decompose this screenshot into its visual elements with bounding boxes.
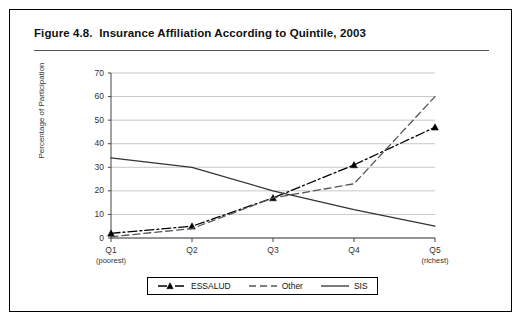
legend-item-essalud[interactable]: ESSALUD (157, 281, 231, 291)
plot-svg (10, 10, 513, 313)
legend-item-other[interactable]: Other (248, 281, 303, 291)
chart-area: Percentage of Participation 010203040506… (10, 10, 513, 313)
figure-panel: Figure 4.8. Insurance Affiliation Accord… (9, 9, 512, 312)
legend-swatch-sis-icon (320, 281, 350, 291)
legend-label: ESSALUD (191, 281, 231, 291)
legend-item-sis[interactable]: SIS (320, 281, 368, 291)
legend-label: SIS (354, 281, 368, 291)
chart-legend: ESSALUDOtherSIS (147, 277, 378, 295)
legend-swatch-other-icon (248, 281, 278, 291)
legend-label: Other (282, 281, 303, 291)
legend-swatch-essalud-icon (157, 281, 187, 291)
